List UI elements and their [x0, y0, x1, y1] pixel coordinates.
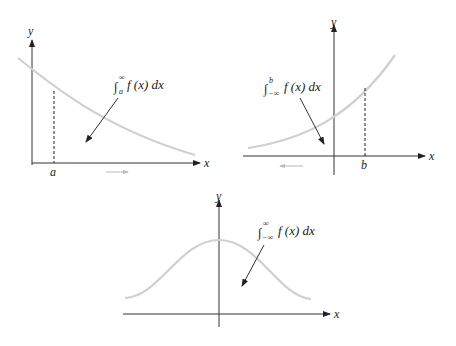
svg-text:∞: ∞	[263, 219, 269, 228]
y-axis-label: y	[27, 24, 34, 38]
svg-text:f (x) dx: f (x) dx	[278, 223, 315, 238]
figure-left-tail: y x b ∫ b −∞ f (x) dx	[243, 15, 435, 175]
improper-integrals-diagram: y x a ∫ ∞ a f (x) dx y x b ∫ b −∞ f (x) …	[0, 0, 456, 346]
increasing-curve	[248, 55, 395, 148]
y-axis-label: y	[215, 189, 222, 203]
x-axis-label: x	[428, 149, 435, 163]
integral-label-a-to-infinity: ∫ ∞ a f (x) dx	[113, 73, 164, 96]
x-axis-label: x	[333, 307, 340, 321]
integral-pointer-arrow	[300, 98, 324, 144]
svg-text:−∞: −∞	[268, 89, 279, 98]
decreasing-curve	[18, 58, 195, 155]
bound-a-label: a	[50, 165, 56, 179]
y-axis-label: y	[330, 15, 337, 29]
figure-right-tail: y x a ∫ ∞ a f (x) dx	[18, 24, 210, 179]
svg-text:b: b	[269, 76, 273, 85]
figure-full-line: y x ∫ ∞ −∞ f (x) dx	[123, 189, 340, 327]
svg-text:f (x) dx: f (x) dx	[284, 79, 321, 94]
integral-pointer-arrow	[86, 98, 118, 142]
svg-text:−∞: −∞	[262, 233, 273, 242]
svg-text:∞: ∞	[119, 73, 125, 82]
integral-label-neg-infinity-to-b: ∫ b −∞ f (x) dx	[263, 76, 321, 98]
integral-pointer-arrow	[242, 245, 264, 286]
svg-text:a: a	[119, 87, 123, 96]
bell-curve	[125, 240, 311, 299]
integral-label-neg-infinity-to-infinity: ∫ ∞ −∞ f (x) dx	[257, 219, 315, 242]
bound-b-label: b	[361, 158, 367, 172]
x-axis-label: x	[203, 156, 210, 170]
svg-text:f (x) dx: f (x) dx	[127, 77, 164, 92]
